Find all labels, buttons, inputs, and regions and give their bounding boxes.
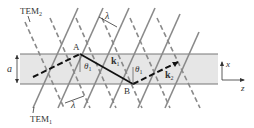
axis-x-label: x [225, 59, 230, 69]
axis-z-label: z [240, 83, 245, 93]
thickness-label: a [7, 63, 12, 74]
lambda-bottom-label: λ [70, 99, 76, 110]
point-a-label: A [73, 42, 80, 52]
tem2-label: TEM2 [20, 6, 42, 17]
waveguide-diagram: a λ λ TEM2 TEM1 A B θ1 θ1 k1 k2 x z [0, 0, 254, 128]
tem1-label: TEM1 [30, 114, 52, 125]
lambda-top-label: λ [104, 10, 110, 21]
point-b-label: B [124, 86, 130, 96]
